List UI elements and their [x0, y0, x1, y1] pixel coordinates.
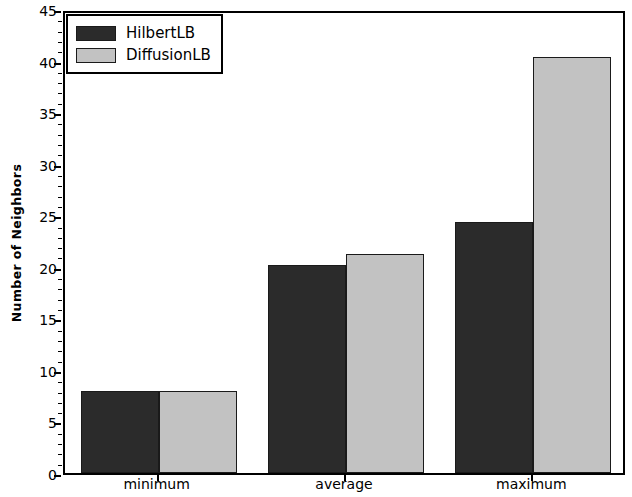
y-minor-tick-mark [58, 73, 62, 74]
y-tick-label: 20 [13, 262, 57, 276]
legend-label-diffusionlb: DiffusionLB [126, 48, 211, 63]
y-minor-tick-mark [58, 382, 62, 383]
y-minor-tick-mark [58, 434, 62, 435]
y-minor-tick-mark [58, 145, 62, 146]
y-minor-tick-mark [58, 238, 62, 239]
y-minor-tick-mark [58, 186, 62, 187]
y-tick-mark [54, 166, 61, 168]
bar-maximum-diffusionlb [533, 57, 611, 473]
legend-item-diffusionlb: DiffusionLB [76, 44, 211, 66]
y-tick-mark [54, 320, 61, 322]
bar-minimum-diffusionlb [159, 391, 237, 473]
y-minor-tick-mark [58, 155, 62, 156]
legend: HilbertLB DiffusionLB [66, 14, 223, 74]
y-minor-tick-mark [58, 135, 62, 136]
y-minor-tick-mark [58, 21, 62, 22]
y-tick-label: 5 [13, 416, 57, 430]
y-minor-tick-mark [58, 444, 62, 445]
y-minor-tick-mark [58, 124, 62, 125]
y-tick-mark [54, 63, 61, 65]
legend-swatch-hilbertlb [76, 26, 116, 41]
y-tick-label: 15 [13, 313, 57, 327]
y-tick-mark [54, 372, 61, 374]
y-minor-tick-mark [58, 83, 62, 84]
y-minor-tick-mark [58, 93, 62, 94]
y-minor-tick-mark [58, 42, 62, 43]
x-tick-mark [344, 475, 346, 481]
y-tick-mark [54, 423, 61, 425]
y-minor-tick-mark [58, 300, 62, 301]
y-minor-tick-mark [58, 248, 62, 249]
y-tick-label: 30 [13, 159, 57, 173]
bar-average-diffusionlb [346, 254, 424, 473]
y-minor-tick-mark [58, 258, 62, 259]
y-minor-tick-mark [58, 362, 62, 363]
y-minor-tick-mark [58, 104, 62, 105]
y-tick-label: 35 [13, 107, 57, 121]
legend-label-hilbertlb: HilbertLB [126, 26, 195, 41]
y-minor-tick-mark [58, 351, 62, 352]
legend-swatch-diffusionlb [76, 48, 116, 63]
y-minor-tick-mark [58, 393, 62, 394]
y-minor-tick-mark [58, 413, 62, 414]
y-tick-label: 45 [13, 4, 57, 18]
y-tick-label: 0 [13, 468, 57, 482]
y-minor-tick-mark [58, 465, 62, 466]
bar-chart-figure: Number of Neighbors 051015202530354045 H… [0, 0, 632, 497]
y-tick-label: 10 [13, 365, 57, 379]
bar-average-hilbertlb [268, 265, 346, 473]
legend-item-hilbertlb: HilbertLB [76, 22, 211, 44]
y-tick-mark [54, 475, 61, 477]
y-minor-tick-mark [58, 228, 62, 229]
y-tick-mark [54, 217, 61, 219]
x-tick-mark [531, 475, 533, 481]
x-tick-mark [157, 475, 159, 481]
y-minor-tick-mark [58, 207, 62, 208]
y-tick-mark [54, 269, 61, 271]
y-tick-label: 25 [13, 210, 57, 224]
y-axis-tick-labels: 051015202530354045 [9, 0, 57, 497]
y-tick-label: 40 [13, 56, 57, 70]
y-minor-tick-mark [58, 279, 62, 280]
y-minor-tick-mark [58, 32, 62, 33]
y-minor-tick-mark [58, 176, 62, 177]
y-minor-tick-mark [58, 310, 62, 311]
bar-minimum-hilbertlb [81, 391, 159, 473]
y-minor-tick-mark [58, 331, 62, 332]
y-minor-tick-mark [58, 289, 62, 290]
bar-maximum-hilbertlb [455, 222, 533, 473]
y-tick-mark [54, 11, 61, 13]
y-minor-tick-mark [58, 403, 62, 404]
y-minor-tick-mark [58, 197, 62, 198]
y-minor-tick-mark [58, 52, 62, 53]
y-minor-tick-mark [58, 454, 62, 455]
y-tick-mark [54, 114, 61, 116]
plot-area: HilbertLB DiffusionLB [63, 11, 625, 475]
y-minor-tick-mark [58, 341, 62, 342]
